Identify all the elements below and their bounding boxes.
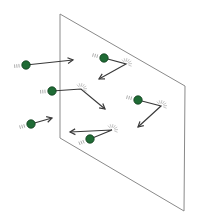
impact-burst-icon bbox=[113, 125, 115, 128]
motion-lines-icon bbox=[97, 54, 98, 57]
impact-burst-icon bbox=[163, 107, 166, 108]
particle-p6 bbox=[70, 124, 118, 145]
motion-lines-icon bbox=[79, 142, 80, 145]
trajectory-line bbox=[26, 60, 73, 65]
particle-p2 bbox=[93, 53, 132, 79]
particles-group bbox=[14, 53, 167, 145]
impact-burst-icon bbox=[157, 102, 159, 105]
motion-lines-icon bbox=[24, 124, 25, 127]
motion-lines-icon bbox=[131, 96, 132, 99]
particle-ball bbox=[134, 96, 142, 104]
particle-ball bbox=[27, 120, 35, 128]
impact-burst-icon bbox=[108, 126, 110, 129]
impact-burst-icon bbox=[77, 85, 79, 88]
impact-burst-icon bbox=[128, 65, 131, 66]
motion-lines-icon bbox=[95, 54, 96, 57]
impact-burst-icon bbox=[124, 58, 125, 61]
particle-ball bbox=[86, 135, 94, 143]
motion-lines-icon bbox=[20, 125, 21, 128]
diagram-canvas bbox=[0, 0, 197, 220]
impact-burst-icon bbox=[122, 60, 124, 63]
motion-lines-icon bbox=[127, 95, 128, 98]
particle-p4 bbox=[127, 95, 167, 127]
impact-burst-icon bbox=[112, 124, 113, 127]
impact-burst-icon bbox=[110, 124, 111, 127]
motion-lines-icon bbox=[93, 53, 94, 56]
impact-burst-icon bbox=[163, 103, 166, 105]
particle-ball bbox=[100, 54, 108, 62]
particle-ball bbox=[48, 87, 56, 95]
impact-burst-icon bbox=[81, 83, 82, 86]
motion-lines-icon bbox=[83, 140, 84, 143]
impact-burst-icon bbox=[79, 83, 80, 86]
impact-burst-icon bbox=[161, 100, 162, 103]
impact-burst-icon bbox=[82, 84, 84, 87]
motion-lines-icon bbox=[22, 125, 23, 128]
impact-burst-icon bbox=[114, 131, 117, 132]
particle-p3 bbox=[41, 83, 105, 109]
motion-lines-icon bbox=[81, 141, 82, 144]
motion-lines-icon bbox=[129, 96, 130, 99]
particle-p1 bbox=[14, 58, 73, 70]
impact-burst-icon bbox=[114, 127, 117, 129]
trajectory-line bbox=[138, 100, 161, 127]
particle-ball bbox=[22, 61, 30, 69]
impact-burst-icon bbox=[159, 100, 160, 103]
impact-burst-icon bbox=[127, 59, 129, 62]
particle-p5 bbox=[20, 117, 52, 129]
wall-plane bbox=[60, 14, 185, 211]
impact-burst-icon bbox=[162, 101, 164, 104]
impact-burst-icon bbox=[126, 58, 127, 61]
impact-burst-icon bbox=[128, 61, 131, 63]
impact-burst-icon bbox=[83, 86, 86, 88]
wall-collision-diagram bbox=[0, 0, 197, 220]
